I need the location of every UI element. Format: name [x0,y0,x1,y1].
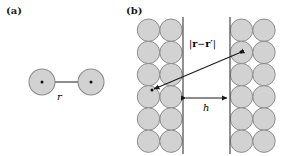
sphere [137,86,159,108]
panel-a-center-dot-right [90,81,93,84]
vector-endpoint-dot-right [240,51,243,54]
sphere [253,41,275,63]
panel-a-label: (a) [6,6,22,16]
sphere [230,63,252,85]
sphere [253,63,275,85]
vector-r-prime-symbol: r′ [205,38,213,49]
separation-vector-label: |r−r′| [189,39,216,49]
sphere [137,63,159,85]
abs-bar-close: | [213,38,216,49]
panel-b-label: (b) [126,6,142,16]
left-wall-spheres [137,19,182,152]
separation-r-label: r [57,92,62,102]
sphere [160,130,182,152]
panel-a-group [29,69,104,95]
sphere [160,108,182,130]
sphere [253,86,275,108]
right-wall-spheres [230,19,275,152]
sphere [253,108,275,130]
sphere [137,130,159,152]
minus-sign: − [197,38,205,49]
figure-root: (a) (b) r h |r−r′| [0,0,283,156]
sphere [160,63,182,85]
gap-h-label: h [203,103,209,113]
figure-canvas [0,0,283,156]
sphere [160,19,182,41]
sphere [230,108,252,130]
vector-endpoint-dot-left [151,89,154,92]
sphere [137,108,159,130]
sphere [230,19,252,41]
sphere [230,86,252,108]
sphere [230,130,252,152]
sphere [253,19,275,41]
sphere [160,41,182,63]
sphere [137,19,159,41]
sphere [137,41,159,63]
sphere [253,130,275,152]
sphere [160,86,182,108]
panel-a-center-dot-left [41,81,44,84]
